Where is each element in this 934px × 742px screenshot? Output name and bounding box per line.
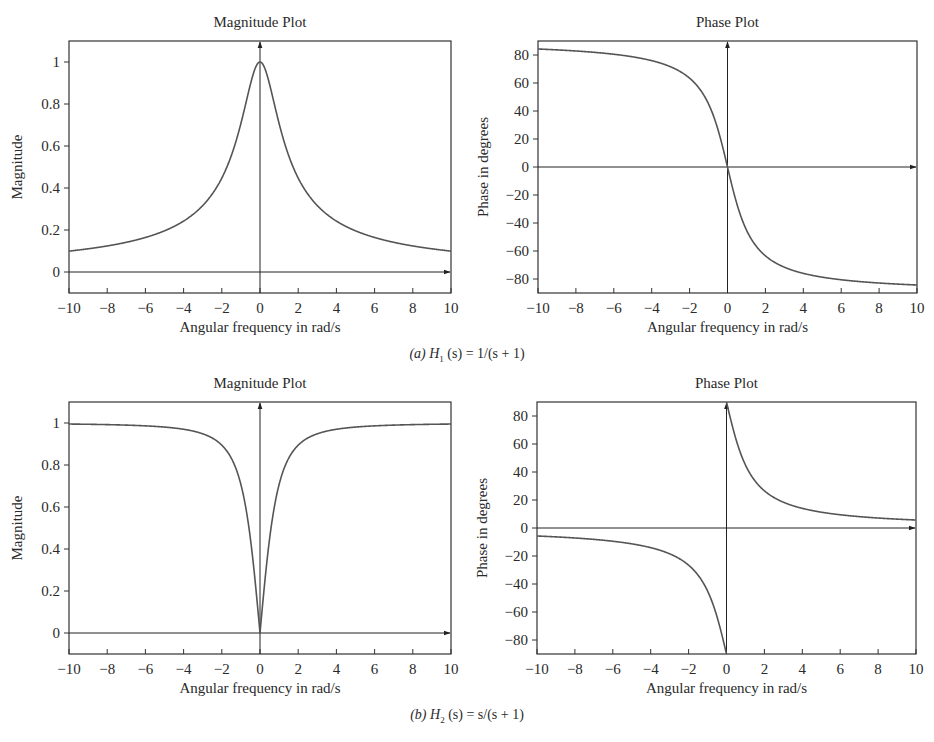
y-axis-label: Magnitude: [9, 134, 25, 199]
x-tick-label: −8: [99, 300, 115, 316]
x-tick-label: −2: [214, 661, 230, 677]
y-tick-label: 0.4: [41, 541, 60, 557]
caption-b-expr: (s) = s/(s + 1): [445, 707, 524, 722]
x-tick-label: −8: [568, 300, 584, 316]
plot-title: Phase Plot: [696, 14, 760, 30]
x-tick-label: −8: [567, 661, 583, 677]
x-tick-label: 0: [256, 661, 264, 677]
y-axis-ticks: −80−60−40−20020406080: [505, 408, 537, 648]
y-tick-label: 0.8: [41, 96, 60, 112]
x-tick-label: 6: [371, 661, 379, 677]
caption-b-label: (b): [410, 707, 426, 722]
y-tick-label: 0.2: [41, 222, 60, 238]
y-axis-ticks: −80−60−40−20020406080: [506, 47, 538, 287]
x-tick-label: −6: [605, 661, 621, 677]
plot-title: Magnitude Plot: [214, 14, 308, 30]
caption-a-expr: (s) = 1/(s + 1): [444, 346, 525, 361]
x-tick-label: 8: [409, 300, 417, 316]
y-tick-label: −60: [506, 243, 529, 259]
x-axis-ticks: −10−8−6−4−20246810: [525, 649, 923, 677]
x-tick-label: 4: [800, 300, 808, 316]
figure-canvas: Magnitude Plot−10−8−6−4−2024681000.20.40…: [0, 0, 934, 742]
y-axis-ticks: 00.20.40.60.81: [41, 415, 69, 641]
data-curve: [727, 402, 916, 520]
y-tick-label: 20: [514, 131, 529, 147]
y-tick-label: 0: [522, 159, 530, 175]
x-tick-label: 8: [409, 661, 417, 677]
x-tick-label: −10: [525, 661, 548, 677]
x-tick-label: 6: [837, 300, 845, 316]
y-axis-label: Phase in degrees: [474, 478, 490, 578]
y-tick-label: 0: [53, 625, 61, 641]
x-tick-label: 4: [333, 300, 341, 316]
y-tick-label: 20: [513, 492, 528, 508]
x-axis-ticks: −10−8−6−4−20246810: [57, 649, 458, 677]
x-tick-label: −6: [606, 300, 622, 316]
x-tick-label: 10: [909, 661, 924, 677]
y-tick-label: 80: [514, 47, 529, 63]
y-axis-ticks: 00.20.40.60.81: [41, 54, 69, 280]
x-tick-label: 2: [761, 661, 769, 677]
x-tick-label: 2: [762, 300, 770, 316]
x-tick-label: 6: [836, 661, 844, 677]
x-tick-label: −2: [682, 300, 698, 316]
x-tick-label: −10: [57, 300, 80, 316]
y-tick-label: 60: [514, 75, 529, 91]
y-tick-label: 0.6: [41, 499, 60, 515]
y-tick-label: −80: [506, 271, 529, 287]
x-tick-label: 6: [371, 300, 379, 316]
x-tick-label: −2: [681, 661, 697, 677]
x-tick-label: −4: [643, 661, 659, 677]
y-tick-label: 0.6: [41, 138, 60, 154]
x-tick-label: 4: [333, 661, 341, 677]
x-tick-label: −4: [176, 300, 192, 316]
caption-a-label: (a): [409, 346, 425, 361]
x-tick-label: 2: [294, 300, 302, 316]
x-tick-label: −4: [644, 300, 660, 316]
caption-a-func: H: [429, 346, 439, 361]
y-tick-label: −60: [505, 604, 528, 620]
y-tick-label: −40: [506, 215, 529, 231]
caption-b: (b) H2 (s) = s/(s + 1): [0, 707, 934, 725]
panel-b-phase: Phase Plot−10−8−6−4−20246810−80−60−40−20…: [474, 375, 924, 696]
x-axis-label: Angular frequency in rad/s: [179, 680, 340, 696]
x-tick-label: 8: [874, 661, 882, 677]
y-axis-label: Magnitude: [9, 495, 25, 560]
x-tick-label: −4: [176, 661, 192, 677]
y-tick-label: 1: [53, 415, 61, 431]
x-axis-ticks: −10−8−6−4−20246810: [526, 288, 924, 316]
y-tick-label: 60: [513, 436, 528, 452]
x-axis-ticks: −10−8−6−4−20246810: [57, 288, 458, 316]
x-tick-label: 2: [294, 661, 302, 677]
y-tick-label: 0: [521, 520, 529, 536]
y-axis-label: Phase in degrees: [475, 117, 491, 217]
y-tick-label: 0: [53, 264, 61, 280]
y-tick-label: 40: [514, 103, 529, 119]
y-tick-label: 0.8: [41, 457, 60, 473]
plot-title: Magnitude Plot: [214, 375, 308, 391]
y-tick-label: −40: [505, 576, 528, 592]
panel-a-magnitude: Magnitude Plot−10−8−6−4−2024681000.20.40…: [9, 14, 459, 335]
x-axis-label: Angular frequency in rad/s: [179, 319, 340, 335]
plot-title: Phase Plot: [695, 375, 759, 391]
caption-b-func: H: [430, 707, 440, 722]
y-tick-label: 1: [53, 54, 61, 70]
y-tick-label: 80: [513, 408, 528, 424]
y-tick-label: 0.4: [41, 180, 60, 196]
x-axis-label: Angular frequency in rad/s: [646, 680, 807, 696]
x-tick-label: −6: [137, 661, 153, 677]
x-tick-label: 0: [256, 300, 264, 316]
y-tick-label: −20: [505, 548, 528, 564]
x-tick-label: −10: [526, 300, 549, 316]
y-tick-label: −20: [506, 187, 529, 203]
x-tick-label: −2: [214, 300, 230, 316]
y-tick-label: 0.2: [41, 583, 60, 599]
panel-a-phase: Phase Plot−10−8−6−4−20246810−80−60−40−20…: [475, 14, 925, 335]
x-tick-label: 0: [724, 300, 732, 316]
x-tick-label: 0: [723, 661, 731, 677]
x-tick-label: 8: [875, 300, 883, 316]
x-tick-label: 10: [910, 300, 925, 316]
y-tick-label: −80: [505, 632, 528, 648]
caption-a: (a) H1 (s) = 1/(s + 1): [0, 346, 934, 364]
x-tick-label: 4: [799, 661, 807, 677]
